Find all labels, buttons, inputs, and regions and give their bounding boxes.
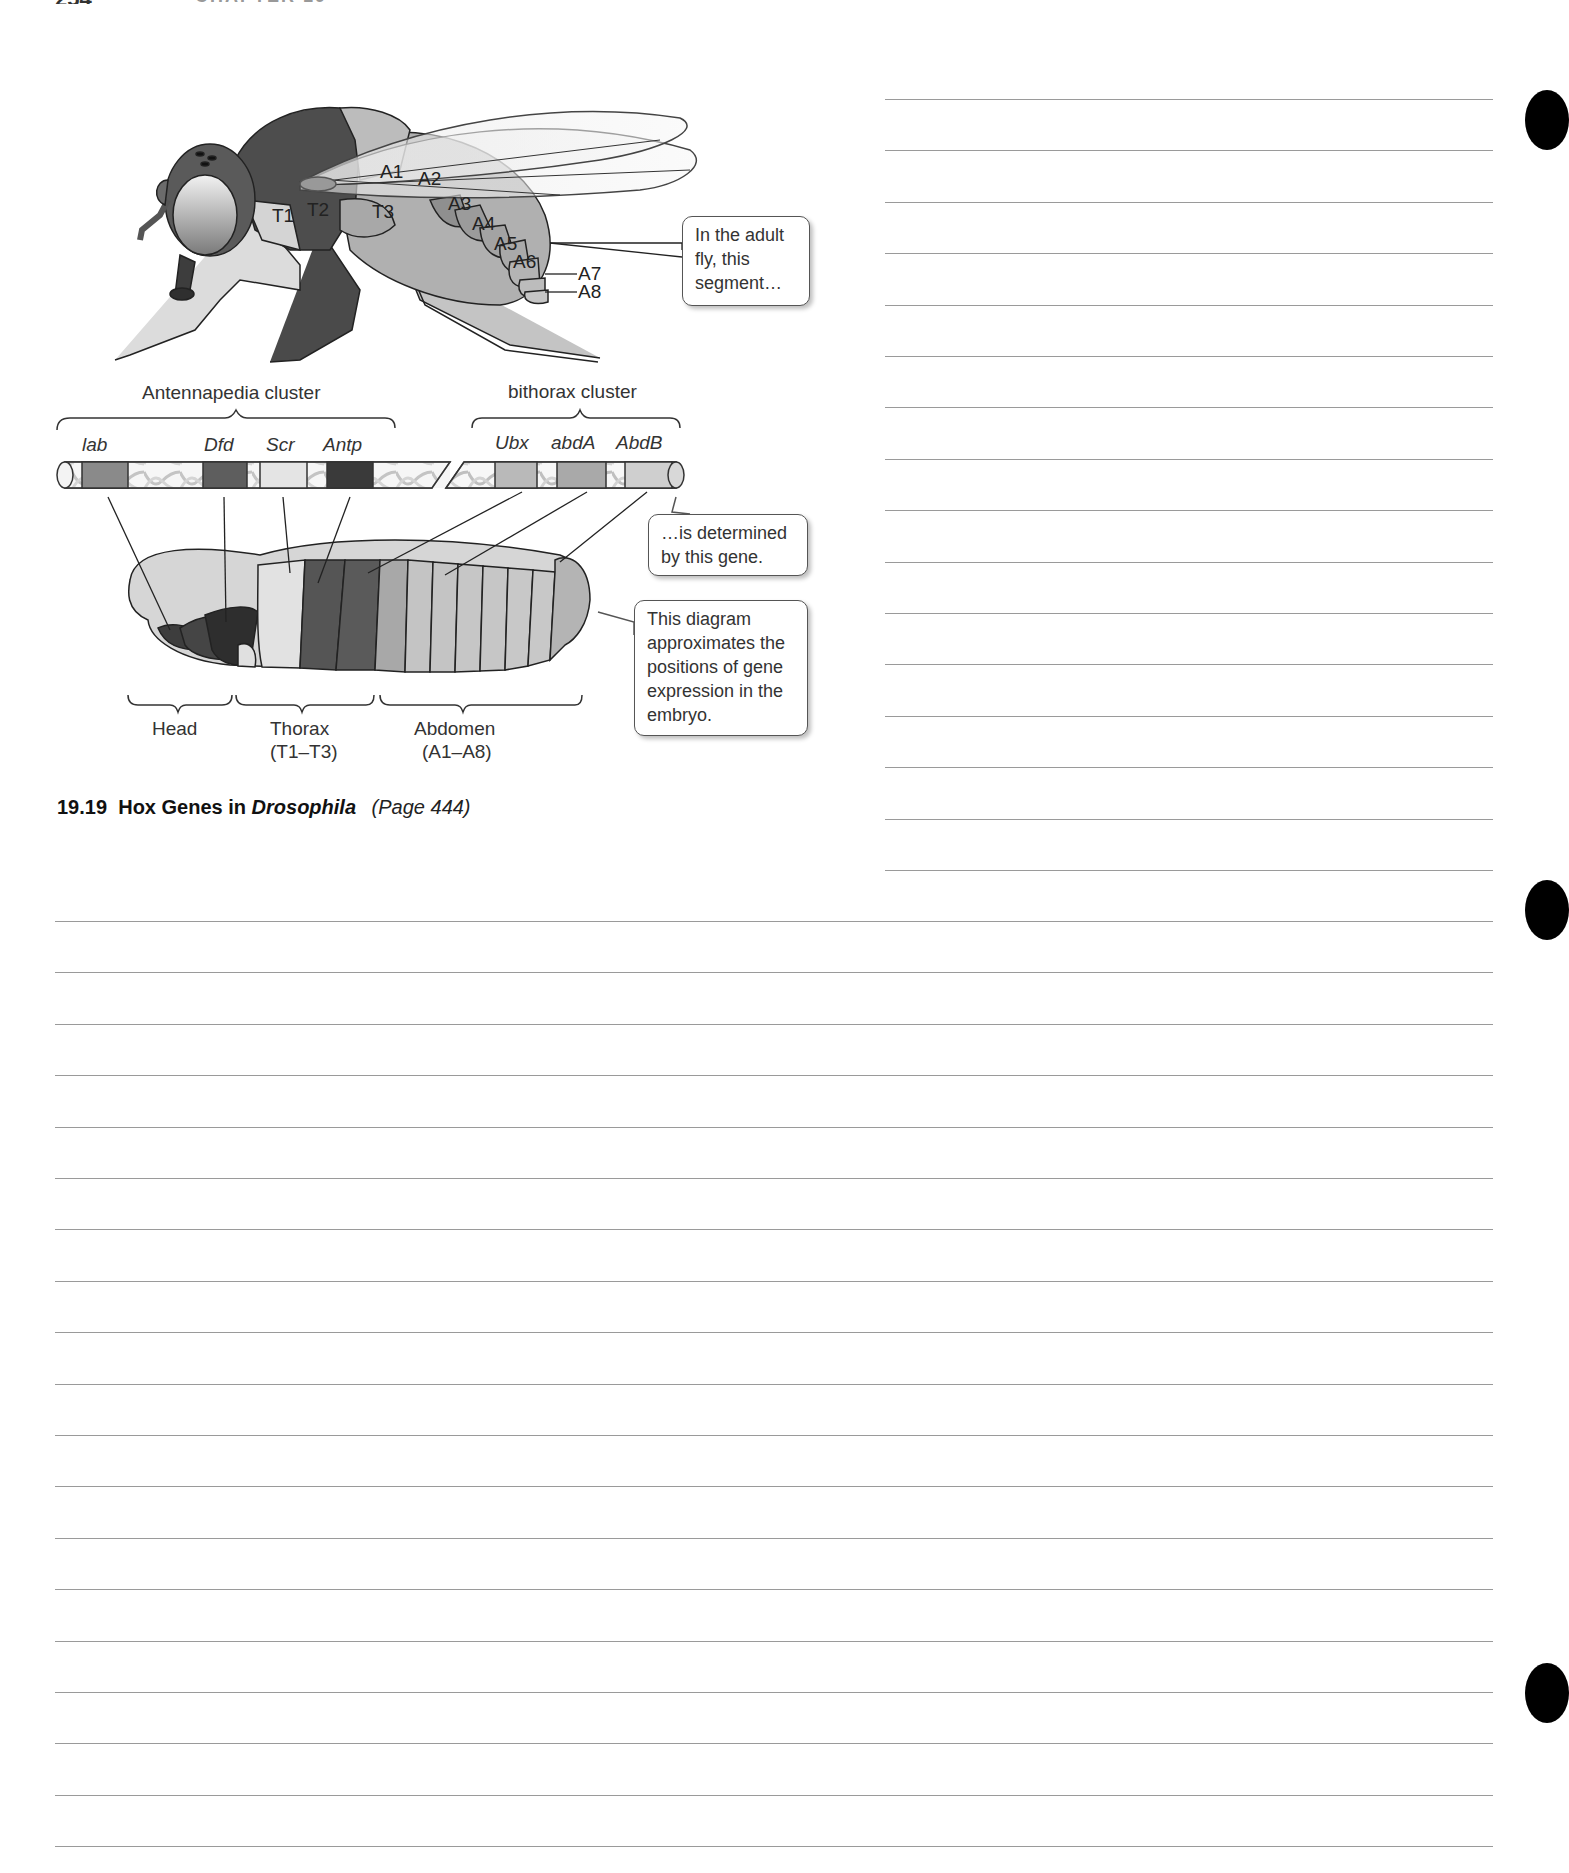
- embryo: [129, 540, 590, 672]
- gene-label-dfd: Dfd: [204, 434, 234, 456]
- region-braces: [128, 695, 582, 712]
- callout-diagram-note: This diagram approximates the positions …: [634, 600, 808, 736]
- hox-figure: T1 T2 T3 A1 A2 A3 A4 A5 A6 A7 A8: [0, 0, 860, 790]
- svg-text:T3: T3: [372, 201, 394, 222]
- note-line: [55, 1075, 1493, 1076]
- note-line: [885, 562, 1493, 563]
- region-label-head: Head: [152, 718, 197, 740]
- note-line: [885, 767, 1493, 768]
- svg-text:A6: A6: [513, 251, 536, 272]
- note-line: [885, 870, 1493, 871]
- gene-label-abda: abdA: [551, 432, 595, 454]
- figure-title-prefix: Hox Genes in: [118, 796, 246, 818]
- note-line: [55, 1332, 1493, 1333]
- punch-hole-middle: [1525, 880, 1569, 940]
- note-line: [55, 1589, 1493, 1590]
- note-line: [885, 253, 1493, 254]
- bithorax-cluster-label: bithorax cluster: [508, 381, 637, 403]
- note-line: [55, 1692, 1493, 1693]
- note-line: [55, 1435, 1493, 1436]
- gene-label-scr: Scr: [266, 434, 295, 456]
- note-line: [55, 1229, 1493, 1230]
- note-line: [55, 1281, 1493, 1282]
- gene-label-lab: lab: [82, 434, 107, 456]
- region-label-thorax: Thorax: [270, 718, 329, 740]
- note-line: [55, 1538, 1493, 1539]
- note-line: [885, 510, 1493, 511]
- cluster-braces: [57, 410, 680, 430]
- note-line: [885, 613, 1493, 614]
- figure-number: 19.19: [57, 796, 107, 818]
- note-line: [55, 1641, 1493, 1642]
- punch-hole-bottom: [1525, 1663, 1569, 1723]
- note-line: [885, 407, 1493, 408]
- note-line: [885, 819, 1493, 820]
- note-line: [885, 664, 1493, 665]
- note-line: [55, 1795, 1493, 1796]
- note-line: [55, 921, 1493, 922]
- note-line: [885, 202, 1493, 203]
- note-line: [885, 99, 1493, 100]
- note-line: [55, 1384, 1493, 1385]
- svg-text:A4: A4: [472, 213, 496, 234]
- figure-caption: 19.19 Hox Genes in Drosophila (Page 444): [57, 796, 471, 819]
- note-line: [885, 459, 1493, 460]
- note-line: [55, 972, 1493, 973]
- chromosome: [57, 462, 684, 488]
- gene-label-abdb: AbdB: [616, 432, 662, 454]
- note-line: [55, 1024, 1493, 1025]
- gene-label-ubx: Ubx: [495, 432, 529, 454]
- svg-text:T1: T1: [272, 205, 294, 226]
- svg-text:A2: A2: [418, 168, 441, 189]
- region-label-thorax-range: (T1–T3): [270, 741, 338, 763]
- antennapedia-cluster-label: Antennapedia cluster: [142, 382, 321, 404]
- svg-text:A8: A8: [578, 281, 601, 302]
- note-line: [55, 1486, 1493, 1487]
- svg-text:T2: T2: [307, 199, 329, 220]
- punch-hole-top: [1525, 90, 1569, 150]
- region-label-abdomen-range: (A1–A8): [422, 741, 492, 763]
- note-line: [885, 716, 1493, 717]
- svg-text:A3: A3: [448, 193, 471, 214]
- figure-title-italic: Drosophila: [252, 796, 356, 818]
- note-line: [55, 1127, 1493, 1128]
- note-line: [55, 1743, 1493, 1744]
- figure-page-ref: (Page 444): [372, 796, 471, 818]
- svg-text:A1: A1: [380, 161, 403, 182]
- callout-gene-determined: …is determined by this gene.: [648, 514, 808, 576]
- note-line: [55, 1846, 1493, 1847]
- note-line: [885, 150, 1493, 151]
- note-line: [885, 356, 1493, 357]
- adult-fly: [115, 107, 696, 362]
- gene-label-antp: Antp: [323, 434, 362, 456]
- callout-adult-segment: In the adult fly, this segment…: [682, 216, 810, 306]
- note-line: [55, 1178, 1493, 1179]
- region-label-abdomen: Abdomen: [414, 718, 495, 740]
- note-line: [885, 305, 1493, 306]
